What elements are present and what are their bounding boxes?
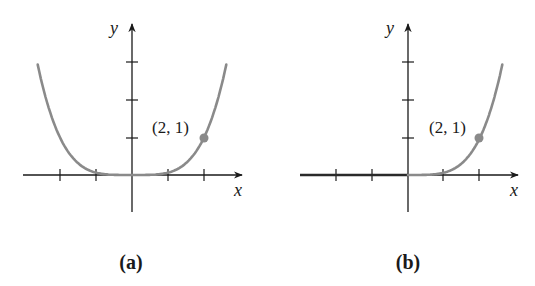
figure: (2, 1) y x (a) (2, 1) y x (b) (0, 0, 535, 286)
y-axis-label-b: y (384, 18, 394, 38)
point-2-1-b (475, 134, 484, 143)
panel-a: (2, 1) y x (a) (23, 18, 242, 274)
caption-a: (a) (119, 251, 142, 274)
x-axis-label-b: x (509, 180, 518, 200)
x-axis-label-a: x (233, 180, 242, 200)
point-2-1-a (200, 134, 209, 143)
panel-b: (2, 1) y x (b) (300, 18, 518, 274)
point-label-a: (2, 1) (152, 118, 189, 137)
y-axis-label-a: y (108, 18, 118, 38)
caption-b: (b) (396, 251, 420, 274)
point-label-b: (2, 1) (429, 118, 466, 137)
